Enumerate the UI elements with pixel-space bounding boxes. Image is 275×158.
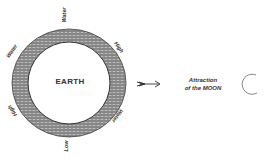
attraction-arrow-icon [137, 81, 160, 87]
low-label-bottom: Low [63, 141, 69, 152]
moon-icon [242, 74, 257, 94]
tides-diagram: EARTH Attraction of the MOON Water High … [0, 0, 275, 158]
water-label-top: Water [61, 7, 67, 22]
diagram-canvas [0, 0, 275, 158]
attraction-label: Attraction of the MOON [178, 76, 228, 92]
attraction-label-line1: Attraction [178, 76, 228, 84]
attraction-label-line2: of the MOON [178, 84, 228, 92]
earth-label: EARTH [50, 77, 90, 86]
